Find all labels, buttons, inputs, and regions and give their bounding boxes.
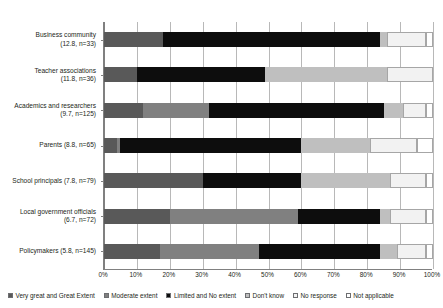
y-axis-label-line: Teacher associations — [0, 67, 96, 75]
bar-segment[interactable] — [298, 209, 380, 224]
bar-segment[interactable] — [143, 103, 209, 118]
legend-item[interactable]: Moderate extent — [104, 292, 158, 299]
x-axis-tick-labels: 0%10%20%30%40%50%60%70%80%90%100% — [103, 271, 432, 283]
legend-swatch-icon — [166, 293, 171, 298]
y-axis-label-line: Academics and researchers — [0, 102, 96, 110]
x-axis-tick-label: 70% — [327, 271, 340, 278]
bar-segment[interactable] — [426, 173, 433, 188]
bar-segment[interactable] — [104, 209, 170, 224]
stacked-bar[interactable] — [104, 67, 433, 82]
bar-segment[interactable] — [104, 138, 117, 153]
legend-label: Don't know — [253, 292, 284, 299]
y-axis-label-line: Local government officials — [0, 208, 96, 216]
bar-segment[interactable] — [387, 67, 433, 82]
bar-row — [104, 103, 433, 118]
x-axis-tick-label: 10% — [129, 271, 142, 278]
y-axis-label-line: Parents (8.8, n=65) — [0, 141, 96, 149]
y-axis-label: Academics and researchers(9.7, n=125) — [0, 102, 96, 118]
bar-segment[interactable] — [137, 67, 265, 82]
legend-item[interactable]: No response — [293, 292, 337, 299]
y-axis-label-line: (9.7, n=125) — [0, 110, 96, 118]
legend-item[interactable]: Limited and No extent — [166, 292, 236, 299]
bar-segment[interactable] — [104, 67, 137, 82]
y-axis-label-line: (6.7, n=72) — [0, 216, 96, 224]
legend-label: Not applicable — [353, 292, 394, 299]
bar-segment[interactable] — [380, 209, 390, 224]
bar-row — [104, 138, 433, 153]
chart-legend: Very great and Great ExtentModerate exte… — [8, 289, 438, 301]
bar-segment[interactable] — [265, 67, 387, 82]
bar-segment[interactable] — [104, 173, 203, 188]
bar-segment[interactable] — [170, 209, 298, 224]
legend-swatch-icon — [245, 293, 250, 298]
legend-item[interactable]: Not applicable — [346, 292, 394, 299]
y-axis-label: Teacher associations(11.8, n=36) — [0, 67, 96, 83]
bar-segment[interactable] — [380, 244, 396, 259]
legend-item[interactable]: Don't know — [245, 292, 284, 299]
bar-segment[interactable] — [417, 138, 433, 153]
stacked-bar[interactable] — [104, 138, 433, 153]
x-axis-tick-label: 60% — [294, 271, 307, 278]
x-axis-tick-label: 80% — [360, 271, 373, 278]
bar-segment[interactable] — [390, 173, 426, 188]
x-axis-line — [103, 269, 432, 270]
bar-segment[interactable] — [370, 138, 416, 153]
bar-segment[interactable] — [301, 138, 370, 153]
bar-segment[interactable] — [160, 244, 259, 259]
stacked-bar[interactable] — [104, 173, 433, 188]
x-axis-tick-label: 0% — [98, 271, 107, 278]
bar-segment[interactable] — [380, 32, 387, 47]
bar-segment[interactable] — [384, 103, 404, 118]
x-axis-tick-label: 100% — [424, 271, 440, 278]
legend-item[interactable]: Very great and Great Extent — [8, 292, 95, 299]
bar-rows — [104, 22, 433, 269]
bar-segment[interactable] — [203, 173, 302, 188]
bar-segment[interactable] — [397, 244, 427, 259]
bar-segment[interactable] — [209, 103, 383, 118]
y-axis-label: Business community(12.8, n=33) — [0, 31, 96, 47]
stacked-bar-chart: Business community(12.8, n=33)Teacher as… — [0, 0, 443, 308]
bar-segment[interactable] — [104, 103, 143, 118]
bar-segment[interactable] — [390, 209, 426, 224]
y-axis-label: Policymakers (5.8, n=145) — [0, 247, 96, 255]
chart-title — [0, 0, 443, 5]
bar-row — [104, 244, 433, 259]
x-axis-tick-label: 40% — [228, 271, 241, 278]
stacked-bar[interactable] — [104, 209, 433, 224]
legend-label: Moderate extent — [111, 292, 157, 299]
stacked-bar[interactable] — [104, 32, 433, 47]
x-axis-tick-label: 30% — [195, 271, 208, 278]
bar-row — [104, 32, 433, 47]
x-axis-tick-label: 90% — [393, 271, 406, 278]
bar-segment[interactable] — [301, 173, 390, 188]
bar-segment[interactable] — [259, 244, 381, 259]
x-axis-tick-label: 20% — [162, 271, 175, 278]
bar-row — [104, 173, 433, 188]
bar-segment[interactable] — [387, 32, 426, 47]
y-axis-labels: Business community(12.8, n=33)Teacher as… — [0, 22, 100, 269]
y-axis-label-line: Business community — [0, 31, 96, 39]
legend-swatch-icon — [293, 293, 298, 298]
bar-segment[interactable] — [163, 32, 380, 47]
bar-segment[interactable] — [104, 244, 160, 259]
legend-swatch-icon — [8, 293, 13, 298]
y-axis-label-line: School principals (7.8, n=79) — [0, 177, 96, 185]
stacked-bar[interactable] — [104, 103, 433, 118]
bar-segment[interactable] — [426, 209, 433, 224]
bar-segment[interactable] — [403, 103, 426, 118]
stacked-bar[interactable] — [104, 244, 433, 259]
bar-segment[interactable] — [426, 103, 433, 118]
bar-segment[interactable] — [426, 244, 433, 259]
bar-segment[interactable] — [104, 32, 163, 47]
bar-segment[interactable] — [120, 138, 301, 153]
plot-area — [103, 22, 433, 269]
y-axis-label: Local government officials(6.7, n=72) — [0, 208, 96, 224]
x-axis-tick-label: 50% — [261, 271, 274, 278]
bar-row — [104, 209, 433, 224]
y-axis-label: Parents (8.8, n=65) — [0, 141, 96, 149]
bar-segment[interactable] — [426, 32, 433, 47]
legend-swatch-icon — [104, 293, 109, 298]
y-axis-label-line: (11.8, n=36) — [0, 75, 96, 83]
gridline-100 — [433, 22, 434, 269]
legend-label: Very great and Great Extent — [16, 292, 95, 299]
